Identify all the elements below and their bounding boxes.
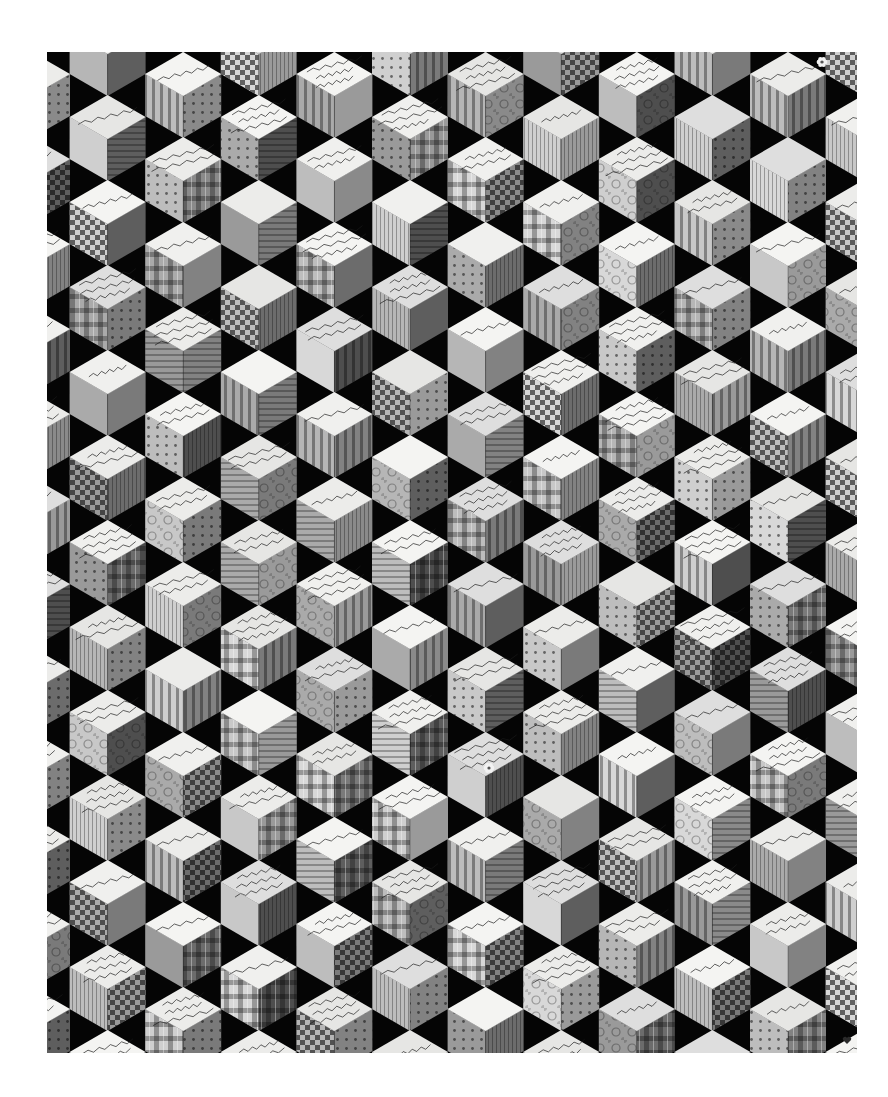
quilt-block [674,95,750,181]
block-left-face [448,52,486,53]
quilt-block [448,137,524,223]
quilt-block [145,817,221,903]
quilt-block [296,647,372,733]
quilt-block [448,307,524,393]
quilt-block [221,180,297,266]
block-top-face [674,1030,750,1053]
quilt-block [523,605,599,691]
quilt-block [523,52,599,96]
block-right-face [486,52,524,53]
quilt-block [750,137,826,223]
quilt-block [296,732,372,818]
quilt-block [826,605,857,691]
quilt-block [674,520,750,606]
quilt-block [145,647,221,733]
quilt-block [674,945,750,1031]
block-right-face [108,52,146,96]
quilt-block [221,520,297,606]
quilt-block [674,690,750,776]
quilt-block [523,775,599,861]
quilt-block [70,1030,146,1053]
quilt-block [47,52,70,138]
quilt-block [372,180,448,266]
quilt-block [523,520,599,606]
quilt-block [448,52,524,138]
block-right-face [334,52,372,53]
quilt-block [47,647,70,733]
quilt-block [47,902,70,988]
quilt-block [47,987,70,1053]
block-right-face [788,52,826,53]
quilt-block [221,435,297,521]
quilt-block [221,1030,297,1053]
quilt-block [750,222,826,308]
quilt-block [296,562,372,648]
quilt-block [47,477,70,563]
block-right-face-pattern [183,52,221,53]
quilt-block [70,775,146,861]
block-right-face-pattern [259,52,297,96]
quilt-block [599,222,675,308]
cube-grid [47,52,857,1053]
block-right-face-pattern [561,52,599,96]
block-top-face [826,1030,857,1053]
block-left-face [750,52,788,53]
quilt-block [296,137,372,223]
quilt-block [826,945,857,1031]
quilt-block [296,52,372,138]
quilt-block [750,477,826,563]
quilt-block [145,52,221,138]
quilt-block [750,562,826,648]
quilt-block [826,775,857,861]
quilt-block [70,605,146,691]
quilt-block [523,690,599,776]
quilt-block [296,987,372,1053]
quilt-block [750,732,826,818]
quilt-block [372,265,448,351]
quilt-block [750,647,826,733]
quilt-block [674,180,750,266]
quilt-block [372,520,448,606]
block-right-face [183,52,221,53]
quilt-block [448,732,524,818]
quilt-block [523,350,599,436]
quilt-block [47,52,70,53]
quilt-block [70,180,146,266]
quilt-block [221,52,297,96]
quilt-block [145,307,221,393]
quilt-block [70,52,146,96]
quilt-block [70,265,146,351]
quilt-block [674,1030,750,1053]
quilt-block [145,562,221,648]
quilt-block [826,1030,857,1053]
quilt-block [221,775,297,861]
quilt-block [826,520,857,606]
quilt-block [599,52,675,138]
quilt-block [47,222,70,308]
quilt-block [47,307,70,393]
quilt-block [750,392,826,478]
quilt-block [448,222,524,308]
quilt-block [372,435,448,521]
quilt-block [599,392,675,478]
quilt-block [372,95,448,181]
quilt-block [145,137,221,223]
quilt-block [47,137,70,223]
quilt-block [674,435,750,521]
quilt-block [448,987,524,1053]
quilt-photograph [47,52,857,1053]
block-left-face-pattern [826,52,857,96]
quilt-block [221,350,297,436]
quilt-block [599,647,675,733]
quilt-block [523,180,599,266]
block-right-face [47,52,70,53]
quilt-block [599,137,675,223]
block-left-face-pattern [145,52,183,53]
quilt-block [599,987,675,1053]
quilt-block [599,307,675,393]
quilt-block [750,817,826,903]
quilt-block [599,817,675,903]
quilt-block [448,477,524,563]
quilt-block [523,265,599,351]
quilt-block [70,860,146,946]
